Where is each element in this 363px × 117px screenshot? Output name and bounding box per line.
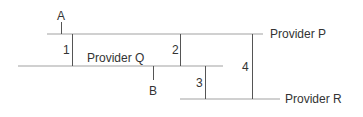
provider-r-label: Provider R xyxy=(285,93,342,105)
provider-q-label: Provider Q xyxy=(87,52,144,64)
point-a-tick xyxy=(61,22,62,34)
point-a-label: A xyxy=(57,10,65,22)
point-b-label: B xyxy=(149,85,157,97)
connector-2-label: 2 xyxy=(172,44,179,56)
provider-r-line xyxy=(180,98,280,100)
connector-3 xyxy=(205,66,206,99)
provider-q-line xyxy=(18,65,223,67)
provider-p-label: Provider P xyxy=(270,28,326,40)
connector-2 xyxy=(180,34,181,66)
connector-1-label: 1 xyxy=(63,44,70,56)
connector-4 xyxy=(252,34,253,99)
connector-3-label: 3 xyxy=(196,77,203,89)
point-b-tick xyxy=(153,66,154,80)
connector-1 xyxy=(72,34,73,66)
connector-4-label: 4 xyxy=(242,61,249,73)
provider-p-line xyxy=(47,33,263,35)
